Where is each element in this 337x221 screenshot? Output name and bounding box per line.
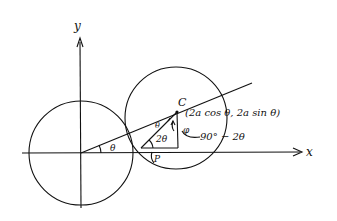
geometry-diagram: y x C (2a cos θ, 2a sin θ) θ θ 2θ φ 90° …: [0, 0, 337, 221]
point-P-label: P: [153, 154, 161, 164]
two-theta-label: 2θ: [155, 134, 168, 144]
triangle-vertical-side: [177, 112, 178, 148]
y-axis-label: y: [73, 19, 81, 33]
theta-at-C-label: θ: [155, 121, 160, 130]
complement-label: 90° − 2θ: [200, 131, 245, 142]
x-axis-label: x: [306, 145, 313, 159]
phi-label: φ: [183, 125, 190, 135]
y-axis: [80, 42, 81, 208]
theta-arc-origin: [99, 145, 101, 153]
center-point: [175, 110, 178, 113]
x-axis: [22, 152, 300, 153]
theta-origin-label: θ: [110, 143, 116, 153]
coordinates-label: (2a cos θ, 2a sin θ): [185, 107, 280, 118]
theta-arc-at-C: [168, 118, 170, 121]
two-theta-arc: [149, 140, 153, 148]
right-circle: [125, 67, 227, 169]
